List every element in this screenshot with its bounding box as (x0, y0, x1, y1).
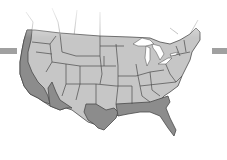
texas (84, 104, 118, 130)
canada-fade (0, 0, 227, 38)
us-map (0, 0, 227, 160)
